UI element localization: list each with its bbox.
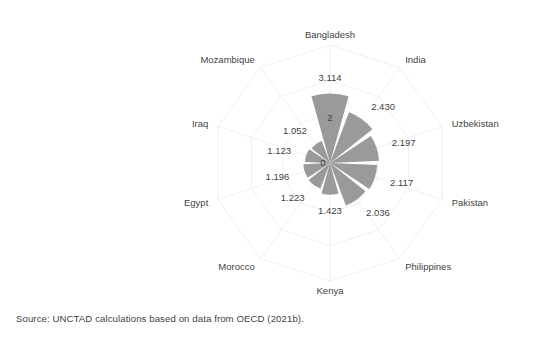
value-label-kenya: 1.423: [318, 205, 342, 216]
category-label-india: India: [405, 54, 426, 65]
chart-wedges: [303, 94, 379, 206]
value-label-philippines: 2.036: [366, 207, 390, 218]
source-note: Source: UNCTAD calculations based on dat…: [16, 313, 304, 324]
radial-tick-2: 2: [327, 112, 332, 123]
rose-chart: 3.1142.4302.1972.1172.0361.4231.2231.196…: [0, 0, 536, 305]
value-label-mozambique: 1.052: [283, 125, 307, 136]
category-label-bangladesh: Bangladesh: [305, 29, 355, 40]
value-label-iraq: 1.123: [267, 145, 291, 156]
category-label-philippines: Philippines: [405, 261, 451, 272]
category-label-mozambique: Mozambique: [200, 54, 254, 65]
rose-chart-svg: 3.1142.4302.1972.1172.0361.4231.2231.196…: [0, 0, 536, 305]
category-label-iraq: Iraq: [192, 118, 208, 129]
value-label-morocco: 1.223: [281, 192, 305, 203]
value-label-egypt: 1.196: [266, 171, 290, 182]
category-label-kenya: Kenya: [317, 285, 345, 296]
chart-category-labels: BangladeshIndiaUzbekistanPakistanPhilipp…: [184, 29, 499, 296]
category-label-morocco: Morocco: [218, 261, 254, 272]
value-label-pakistan: 2.117: [390, 177, 413, 188]
category-label-egypt: Egypt: [184, 197, 209, 208]
value-label-uzbekistan: 2.197: [392, 137, 416, 148]
radial-tick-0: 0: [320, 157, 325, 168]
category-label-pakistan: Pakistan: [452, 197, 488, 208]
value-label-bangladesh: 3.114: [318, 72, 341, 83]
value-label-india: 2.430: [371, 101, 395, 112]
category-label-uzbekistan: Uzbekistan: [452, 118, 499, 129]
